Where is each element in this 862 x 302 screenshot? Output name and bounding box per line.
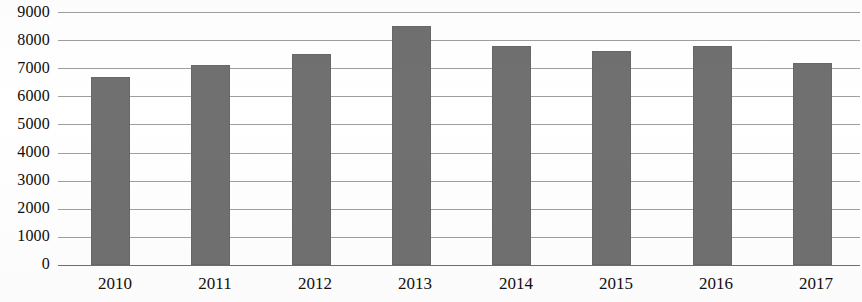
bars-layer <box>58 12 860 265</box>
bar <box>91 77 130 265</box>
y-tick-label: 3000 <box>0 172 50 188</box>
x-tick-label: 2016 <box>676 274 756 294</box>
bar <box>292 54 331 265</box>
bar-chart: 9000 8000 7000 6000 5000 4000 3000 2000 … <box>0 0 862 302</box>
x-tick-label: 2012 <box>275 274 355 294</box>
bar <box>191 65 230 265</box>
x-tick-label: 2011 <box>175 274 255 294</box>
x-tick-label: 2013 <box>375 274 455 294</box>
bar <box>793 63 832 265</box>
bar <box>492 46 531 265</box>
bar <box>392 26 431 265</box>
y-tick-label: 5000 <box>0 116 50 132</box>
x-axis: 20102011201220132014201520162017 <box>0 269 862 302</box>
y-tick-label: 9000 <box>0 4 50 20</box>
x-tick-label: 2010 <box>75 274 155 294</box>
y-tick-label: 2000 <box>0 200 50 216</box>
x-tick-label: 2014 <box>476 274 556 294</box>
x-tick-label: 2015 <box>576 274 656 294</box>
x-tick-label: 2017 <box>776 274 856 294</box>
bar <box>693 46 732 265</box>
y-tick-label: 6000 <box>0 88 50 104</box>
axis-baseline <box>58 265 860 266</box>
bar <box>592 51 631 265</box>
y-tick-label: 1000 <box>0 228 50 244</box>
y-axis: 9000 8000 7000 6000 5000 4000 3000 2000 … <box>0 0 56 302</box>
y-tick-label: 7000 <box>0 60 50 76</box>
y-tick-label: 8000 <box>0 32 50 48</box>
y-tick-label: 4000 <box>0 144 50 160</box>
plot-area <box>58 12 860 265</box>
